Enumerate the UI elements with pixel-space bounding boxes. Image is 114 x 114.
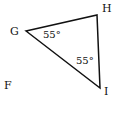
vertex-label-g: G (10, 26, 19, 37)
angle-label-i: 55° (76, 56, 94, 66)
angle-label-g: 55° (43, 30, 61, 40)
vertex-label-h: H (102, 3, 112, 14)
point-label-f: F (4, 80, 12, 91)
triangle-diagram: G H I F 55° 55° (0, 0, 114, 114)
triangle-ghi (0, 0, 114, 114)
vertex-label-i: I (104, 86, 108, 97)
